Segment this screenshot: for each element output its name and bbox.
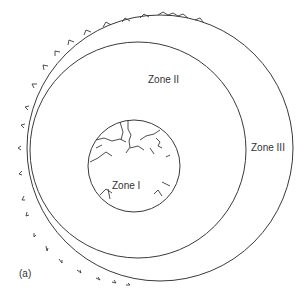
- panel-label: (a): [19, 268, 31, 279]
- middle-circle-zone-2: [30, 42, 246, 258]
- zone-diagram: Zone I Zone II Zone III (a): [0, 0, 305, 294]
- inner-circle-zone-1: [88, 120, 180, 212]
- zone-3-label: Zone III: [251, 142, 285, 153]
- zone-2-label: Zone II: [148, 74, 179, 85]
- zone-1-label: Zone I: [112, 180, 140, 191]
